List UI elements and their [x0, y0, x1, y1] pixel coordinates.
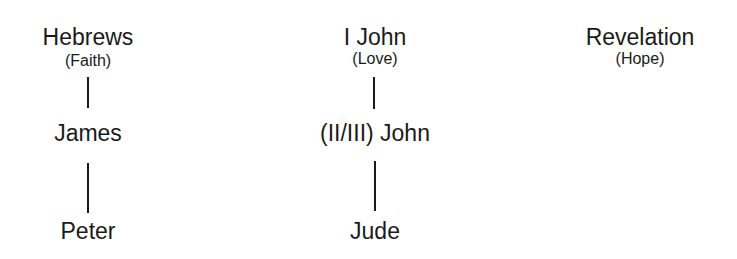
node-ii-iii-john: (II/III) John	[320, 120, 430, 146]
node-jude: Jude	[350, 218, 400, 244]
connector-james-peter	[87, 163, 89, 213]
node-james: James	[54, 120, 122, 146]
node-i-john: I John	[344, 24, 407, 50]
connector-iiiijohn-jude	[374, 161, 376, 211]
node-revelation: Revelation	[586, 24, 695, 50]
node-peter: Peter	[61, 218, 116, 244]
label-hope: (Hope)	[616, 51, 665, 67]
connector-hebrews-james	[87, 77, 89, 108]
label-faith: (Faith)	[65, 53, 111, 69]
node-hebrews: Hebrews	[43, 24, 134, 50]
connector-ijohn-iiiijohn	[373, 77, 375, 109]
label-love: (Love)	[352, 51, 397, 67]
